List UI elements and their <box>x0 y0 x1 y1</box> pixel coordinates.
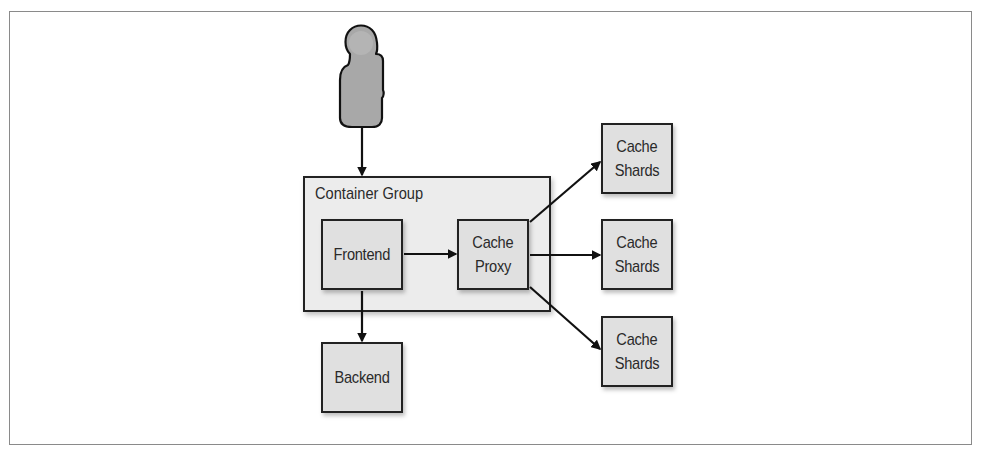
arrow-proxy-to-shards-3 <box>530 287 600 349</box>
diagram-connectors <box>0 0 981 455</box>
user-actor-icon <box>340 26 384 128</box>
arrow-proxy-to-shards-1 <box>530 162 600 222</box>
